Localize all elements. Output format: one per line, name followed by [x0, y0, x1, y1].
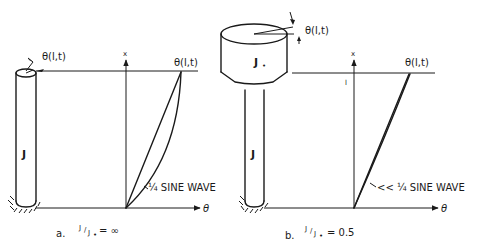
angle-indicator-b	[290, 12, 301, 44]
x-axis-label-a: x	[123, 50, 127, 58]
curve-annotation-b: << ¼ SINE WAVE	[377, 182, 465, 193]
caption-b: b. J / J • = 0.5	[285, 225, 354, 241]
svg-text:= ∞: = ∞	[99, 225, 119, 236]
torsion-diagram: J θ(l,t) x θ θ(l,t) ¼ SINE WAVE a. J / J…	[0, 0, 482, 250]
svg-text:/: /	[310, 227, 313, 235]
shaft-label-a: J	[21, 148, 26, 161]
svg-text:•: •	[319, 232, 323, 240]
svg-text:= 0.5: = 0.5	[327, 227, 354, 238]
svg-text:•: •	[93, 231, 97, 239]
curve-annotation-a: ¼ SINE WAVE	[148, 182, 216, 193]
svg-text:J: J	[313, 230, 316, 238]
shaft-label-b: J	[250, 148, 255, 161]
theta-axis-label-b: θ	[441, 203, 447, 214]
theta-axis-label-a: θ	[203, 203, 209, 214]
svg-text:a.: a.	[56, 228, 65, 239]
disk-b	[221, 24, 294, 84]
annotation-leader-b	[370, 183, 376, 187]
svg-text:J: J	[78, 224, 81, 232]
svg-text:b.: b.	[285, 230, 295, 241]
caption-a: a. J / J • = ∞	[56, 224, 119, 239]
axis-l-label-b: l	[345, 79, 347, 87]
svg-text:•: •	[262, 62, 266, 70]
disk-label-b: J	[253, 56, 258, 69]
svg-text:/: /	[84, 226, 87, 234]
x-axis-label-b: x	[351, 50, 355, 58]
top-angle-label-b: θ(l,t)	[305, 25, 329, 36]
curve-end-label-a: θ(l,t)	[174, 57, 198, 68]
svg-text:J: J	[304, 225, 307, 233]
shaft-a	[16, 69, 36, 207]
panel-a: J θ(l,t) x θ θ(l,t) ¼ SINE WAVE a. J / J…	[8, 50, 216, 239]
curve-end-label-b: θ(l,t)	[405, 57, 429, 68]
top-angle-label-a: θ(l,t)	[42, 51, 66, 62]
panel-b: J J • θ(l,t) l x θ θ(l,t)	[221, 12, 465, 241]
svg-text:J: J	[87, 229, 90, 237]
